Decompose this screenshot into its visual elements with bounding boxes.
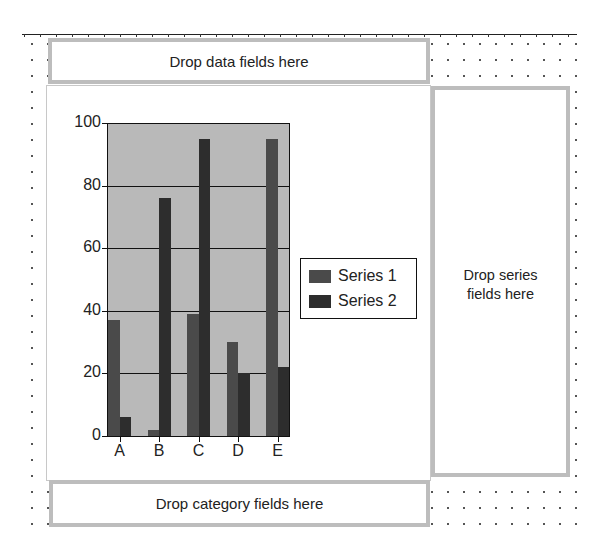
y-tick-mark (102, 123, 107, 124)
bar-series-1-a (108, 320, 120, 436)
data-fields-drop-zone[interactable]: Drop data fields here (48, 38, 430, 84)
series-fields-drop-label: Drop series fields here (451, 266, 551, 304)
legend-label-series-1: Series 1 (338, 267, 397, 285)
bar-series-2-a (120, 417, 132, 436)
y-tick-mark (102, 186, 107, 187)
y-tick-label: 60 (61, 238, 101, 256)
legend-item-series-1: Series 1 (309, 266, 397, 286)
bar-series-1-d (227, 342, 239, 436)
legend-swatch-series-1 (309, 270, 331, 283)
legend-label-series-2: Series 2 (338, 292, 397, 310)
y-tick-label: 80 (61, 176, 101, 194)
bar-series-2-b (159, 198, 171, 436)
bar-series-2-e (278, 367, 290, 436)
y-tick-mark (102, 373, 107, 374)
legend-swatch-series-2 (309, 295, 331, 308)
bar-series-2-d (238, 373, 250, 436)
x-tick-label: A (110, 442, 130, 460)
y-tick-label: 100 (61, 113, 101, 131)
y-tick-label: 40 (61, 301, 101, 319)
chart-legend: Series 1 Series 2 (300, 258, 417, 319)
y-tick-label: 0 (61, 426, 101, 444)
bar-series-1-e (266, 139, 278, 436)
y-tick-label: 20 (61, 363, 101, 381)
category-fields-drop-zone[interactable]: Drop category fields here (49, 480, 430, 527)
x-tick-label: B (149, 442, 169, 460)
data-fields-drop-label: Drop data fields here (169, 52, 308, 71)
series-fields-drop-zone[interactable]: Drop series fields here (431, 86, 570, 477)
x-tick-label: C (189, 442, 209, 460)
bar-series-2-c (199, 139, 211, 436)
x-tick-label: E (268, 442, 288, 460)
plot-area (107, 123, 290, 437)
bar-series-1-b (148, 430, 160, 436)
y-tick-mark (102, 311, 107, 312)
y-tick-mark (102, 248, 107, 249)
x-tick-label: D (228, 442, 248, 460)
y-tick-mark (102, 436, 107, 437)
legend-item-series-2: Series 2 (309, 291, 397, 311)
bar-series-1-c (187, 314, 199, 436)
category-fields-drop-label: Drop category fields here (156, 494, 324, 513)
